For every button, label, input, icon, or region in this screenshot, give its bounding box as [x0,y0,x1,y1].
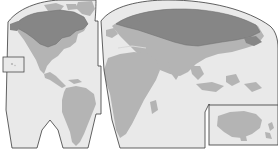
world-map-figure [0,0,278,154]
australia-inset [209,105,278,145]
left-inset [3,57,24,72]
left-inset-island-small [14,65,15,66]
left-inset-island [11,63,13,65]
map-canvas [0,0,278,154]
left-inset-ocean [3,57,24,72]
arctic-islands-east [66,4,78,10]
